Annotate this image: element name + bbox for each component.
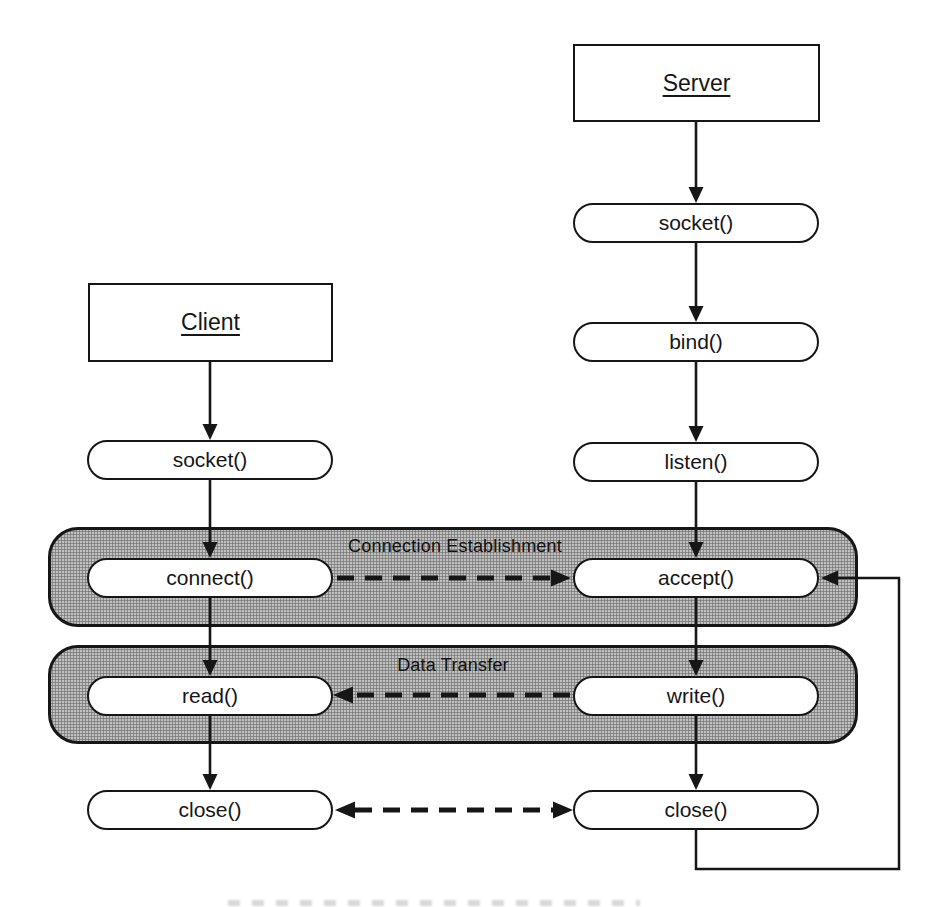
node-bind-label: bind() [669, 330, 723, 354]
node-client-socket: socket() [87, 440, 333, 480]
arrow-close-to-close-dashed [335, 802, 573, 819]
socket-flow-diagram: Connection Establishment Data Transfer S… [0, 0, 947, 907]
client-title: Client [181, 309, 240, 336]
node-read: read() [87, 676, 333, 716]
node-server-socket-label: socket() [659, 211, 734, 235]
node-connect: connect() [87, 558, 333, 598]
cut-off-caption-remnant [228, 900, 640, 906]
band-label-data-transfer: Data Transfer [333, 655, 573, 676]
node-client-close-label: close() [178, 798, 241, 822]
node-write: write() [573, 676, 819, 716]
node-read-label: read() [182, 684, 238, 708]
node-listen: listen() [573, 442, 819, 482]
arrow-bind-to-listen [689, 362, 704, 442]
arrow-server-box-to-socket [689, 122, 704, 203]
server-box: Server [573, 44, 820, 122]
server-title: Server [663, 70, 731, 97]
node-server-socket: socket() [573, 203, 819, 243]
arrow-client-box-to-socket [203, 362, 218, 440]
node-write-label: write() [667, 684, 725, 708]
node-listen-label: listen() [664, 450, 727, 474]
node-server-close-label: close() [664, 798, 727, 822]
band-label-connection-establishment: Connection Establishment [335, 536, 575, 557]
node-accept: accept() [573, 558, 819, 598]
node-connect-label: connect() [166, 566, 254, 590]
client-box: Client [88, 283, 333, 362]
node-accept-label: accept() [658, 566, 734, 590]
node-bind: bind() [573, 322, 819, 362]
node-client-close: close() [87, 790, 333, 830]
node-client-socket-label: socket() [173, 448, 248, 472]
node-server-close: close() [573, 790, 819, 830]
arrow-socket-to-bind [689, 243, 704, 322]
